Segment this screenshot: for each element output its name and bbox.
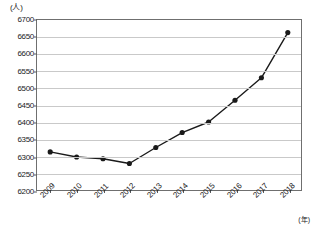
data-point-marker: 2013: 6325 <box>153 145 158 150</box>
y-axis-unit-label: (人) <box>10 1 23 12</box>
gridline-horizontal <box>37 71 301 72</box>
gridline-horizontal <box>37 88 301 89</box>
y-axis-tick-label: 6350 <box>17 136 34 144</box>
y-axis-tick-mark <box>34 20 37 21</box>
gridline-horizontal <box>37 174 301 175</box>
y-axis-tick-mark <box>34 71 37 72</box>
x-axis-unit-label: (年) <box>298 214 310 224</box>
y-axis-tick-mark <box>34 174 37 175</box>
data-point-marker: 2016: 6464 <box>232 98 237 103</box>
y-axis-tick-label: 6250 <box>17 171 34 179</box>
y-axis-tick-label: 6650 <box>17 33 34 41</box>
y-axis-tick-mark <box>34 157 37 158</box>
y-axis-tick-mark <box>34 88 37 89</box>
y-axis-tick-label: 6500 <box>17 85 34 93</box>
y-axis-tick-mark <box>34 192 37 193</box>
y-axis-tick-label: 6450 <box>17 102 34 110</box>
gridline-horizontal <box>37 54 301 55</box>
gridline-horizontal <box>37 157 301 158</box>
y-axis-tick-mark <box>34 54 37 55</box>
y-axis-tick-label: 6700 <box>17 16 34 24</box>
y-axis-tick-label: 6400 <box>17 119 34 127</box>
y-axis-tick-label: 6300 <box>17 154 34 162</box>
series-line <box>50 33 288 164</box>
y-axis-tick-label: 6600 <box>17 50 34 58</box>
y-axis-tick-mark <box>34 140 37 141</box>
gridline-horizontal <box>37 106 301 107</box>
data-point-marker: 2009: 6312 <box>48 149 53 154</box>
gridline-horizontal <box>37 123 301 124</box>
y-axis-tick-mark <box>34 37 37 38</box>
line-chart: (人) 2009: 63122010: 62972011: 62922012: … <box>0 0 312 230</box>
plot-area: 2009: 63122010: 62972011: 62922012: 6278… <box>36 19 302 191</box>
data-point-marker: 2012: 6278 <box>127 161 132 166</box>
y-axis-tick-mark <box>34 123 37 124</box>
y-axis-tick-label: 6550 <box>17 68 34 76</box>
gridline-horizontal <box>37 140 301 141</box>
data-point-marker: 2017: 6530 <box>259 75 264 80</box>
data-point-marker: 2014: 6369 <box>180 130 185 135</box>
y-axis-tick-label: 6200 <box>17 188 34 196</box>
y-axis-tick-mark <box>34 106 37 107</box>
data-point-marker: 2018: 6663 <box>285 30 290 35</box>
gridline-horizontal <box>37 37 301 38</box>
